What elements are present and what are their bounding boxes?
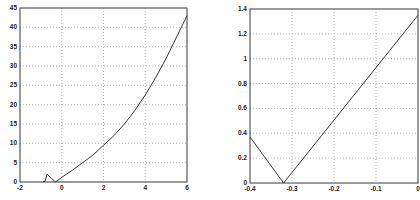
right-chart: -0.4-0.3-0.2-0.1000.20.40.60.811.21.4 bbox=[220, 0, 420, 200]
x-tick-label: -0.2 bbox=[328, 185, 340, 192]
x-tick-label: -0.1 bbox=[370, 185, 382, 192]
y-tick-label: 0 bbox=[13, 178, 17, 185]
y-tick-label: 1.4 bbox=[238, 5, 247, 12]
y-tick-label: 20 bbox=[10, 101, 18, 108]
y-tick-label: 1.2 bbox=[238, 30, 247, 37]
y-tick-label: 25 bbox=[10, 81, 18, 88]
y-tick-label: 40 bbox=[10, 23, 18, 30]
y-tick-label: 0.8 bbox=[238, 80, 247, 87]
right-chart-svg: -0.4-0.3-0.2-0.1000.20.40.60.811.21.4 bbox=[220, 0, 420, 200]
left-chart: -20246051015202530354045 bbox=[0, 0, 200, 200]
y-tick-label: 30 bbox=[10, 62, 18, 69]
y-tick-label: 45 bbox=[10, 4, 18, 11]
x-tick-label: -0.3 bbox=[286, 185, 298, 192]
y-tick-label: 5 bbox=[13, 159, 17, 166]
data-line bbox=[43, 16, 187, 182]
x-tick-label: 2 bbox=[102, 184, 106, 191]
x-tick-label: 0 bbox=[60, 184, 64, 191]
y-tick-label: 10 bbox=[10, 139, 18, 146]
x-tick-label: -0.4 bbox=[244, 185, 256, 192]
y-tick-label: 0.2 bbox=[238, 154, 247, 161]
x-tick-label: -2 bbox=[17, 184, 23, 191]
x-tick-label: 0 bbox=[416, 185, 420, 192]
y-tick-label: 1 bbox=[243, 55, 247, 62]
left-chart-svg: -20246051015202530354045 bbox=[0, 0, 200, 200]
y-tick-label: 0 bbox=[243, 179, 247, 186]
y-tick-label: 35 bbox=[10, 43, 18, 50]
y-tick-label: 0.6 bbox=[238, 104, 247, 111]
x-tick-label: 6 bbox=[185, 184, 189, 191]
y-tick-label: 0.4 bbox=[238, 129, 247, 136]
x-tick-label: 4 bbox=[143, 184, 147, 191]
y-tick-label: 15 bbox=[10, 120, 18, 127]
